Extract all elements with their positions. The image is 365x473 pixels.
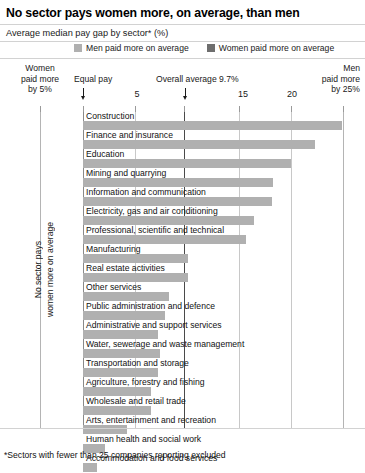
axis-label-equal-pay: Equal pay	[74, 74, 112, 85]
bar-label: Public administration and defence	[86, 301, 215, 311]
bar-label: Arts, entertainment and recreation	[86, 415, 216, 425]
vertical-annotation-line1: No sector pays	[33, 241, 43, 298]
bar	[83, 425, 127, 434]
bar	[83, 368, 158, 377]
bar-label: Wholesale and retail trade	[86, 396, 186, 406]
bar-label: Real estate activities	[86, 263, 165, 273]
bar-label: Mining and quarrying	[86, 168, 166, 178]
legend-item-men: Men paid more on average	[74, 43, 189, 53]
legend-item-women: Women paid more on average	[207, 43, 334, 53]
tick-label-20: 20	[277, 89, 307, 99]
tick-label-15: 15	[228, 89, 258, 99]
axis-note-women-5pct: Women paid more by 5%	[5, 63, 75, 95]
bar-label: Education	[86, 149, 124, 159]
arrow-equal-pay	[80, 88, 87, 101]
bar	[83, 330, 158, 339]
legend-swatch-women	[207, 44, 215, 52]
bar	[83, 463, 97, 472]
legend-label-men: Men paid more on average	[86, 43, 189, 53]
chart-subtitle: Average median pay gap by sector* (%)	[6, 28, 358, 39]
bar-label: Agriculture, forestry and fishing	[86, 377, 204, 387]
bar-label: Electricity, gas and air conditioning	[86, 206, 218, 216]
bar-label: Professional, scientific and technical	[86, 225, 224, 235]
bar	[83, 273, 188, 282]
legend-swatch-men	[74, 44, 82, 52]
bar	[83, 216, 254, 225]
bar	[83, 406, 151, 415]
bar	[83, 235, 246, 244]
bar	[83, 311, 165, 320]
bar-label: Information and communication	[86, 187, 206, 197]
bar	[83, 197, 272, 206]
axis-label-overall-average: Overall average 9.7%	[156, 74, 239, 85]
bar	[83, 292, 169, 301]
arrow-overall-average	[182, 88, 189, 101]
bar	[83, 349, 160, 358]
bar-label: Accommodation and food services	[86, 453, 217, 463]
bar	[83, 178, 273, 187]
bar-label: Manufacturing	[86, 244, 140, 254]
bar	[83, 159, 291, 168]
divider-under-legend	[0, 58, 365, 59]
divider-under-subtitle	[0, 41, 365, 42]
bar-label: Other services	[86, 282, 141, 292]
tick-label-5: 5	[122, 89, 152, 99]
legend-label-women: Women paid more on average	[219, 43, 334, 53]
bar	[83, 387, 151, 396]
divider-above-footnote	[0, 428, 365, 429]
vertical-annotation-line2: women more on average	[45, 222, 55, 317]
chart-legend: Men paid more on average Women paid more…	[74, 43, 334, 53]
axis-note-men-line2: paid more	[290, 74, 360, 85]
vertical-annotation: No sector pays women more on average	[8, 112, 80, 428]
axis-header: Women paid more by 5% Equal pay Overall …	[0, 60, 365, 112]
bar-label: Finance and insurance	[86, 130, 173, 140]
page-title: No sector pays women more, on average, t…	[6, 6, 358, 20]
axis-note-women-line1: Women	[5, 63, 75, 74]
bar-label: Human health and social work	[86, 434, 201, 444]
axis-note-women-line3: by 5%	[5, 84, 75, 95]
bar-label: Construction	[86, 111, 134, 121]
bar	[83, 140, 315, 149]
bar-label: Transportation and storage	[86, 358, 189, 368]
axis-note-women-line2: paid more	[5, 74, 75, 85]
bar	[83, 254, 188, 263]
divider-under-title	[0, 24, 365, 25]
bar-label: Water, sewerage and waste management	[86, 339, 244, 349]
bar	[83, 121, 342, 130]
axis-note-men-line1: Men	[290, 63, 360, 74]
bar-label: Administrative and support services	[86, 320, 222, 330]
